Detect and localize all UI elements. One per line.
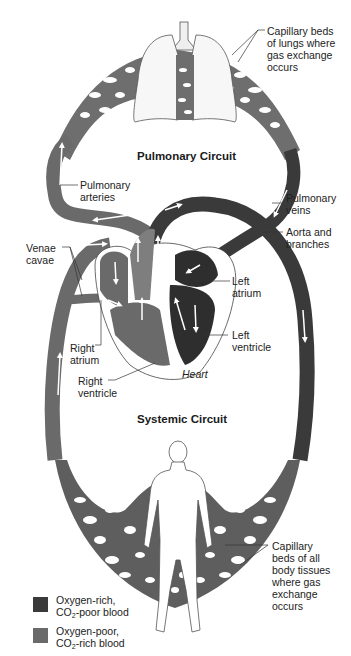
label-left-atrium: Left atrium	[232, 275, 261, 299]
legend-oxygen-rich: Oxygen-rich, CO2-poor blood	[33, 594, 129, 622]
legend-oxygen-poor: Oxygen-poor, CO2-rich blood	[33, 625, 125, 653]
label-pulmonary-veins: Pulmonary veins	[286, 192, 336, 216]
swatch-oxygen-rich	[33, 597, 48, 612]
legend-text-oxygen-rich: Oxygen-rich, CO2-poor blood	[56, 594, 129, 622]
legend-text-oxygen-poor: Oxygen-poor, CO2-rich blood	[56, 625, 125, 653]
heart	[95, 229, 236, 380]
label-aorta: Aorta and branches	[286, 226, 332, 250]
lungs	[134, 22, 236, 122]
label-venae-cavae: Venae cavae	[26, 242, 56, 266]
label-right-atrium: Right atrium	[70, 342, 99, 366]
systemic-circuit-title: Systemic Circuit	[137, 413, 227, 425]
swatch-oxygen-poor	[33, 628, 48, 643]
label-capillary-body: Capillary beds of all body tissues where…	[272, 540, 330, 612]
label-capillary-lungs: Capillary beds of lungs where gas exchan…	[267, 25, 335, 73]
pulmonary-circuit-title: Pulmonary Circuit	[137, 150, 236, 162]
label-pulmonary-arteries: Pulmonary arteries	[80, 179, 130, 203]
heart-label: Heart	[182, 368, 208, 380]
label-right-ventricle: Right ventricle	[78, 375, 117, 399]
label-left-ventricle: Left ventricle	[232, 329, 271, 353]
